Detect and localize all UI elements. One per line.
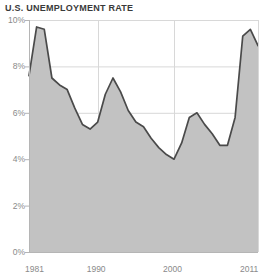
y-axis-tick-label: 4% (1, 154, 25, 164)
y-axis-tick-label: 0% (1, 247, 25, 257)
y-tick-marks-group (25, 21, 29, 253)
y-axis-tick-label: 2% (1, 201, 25, 211)
x-axis-tick-label: 1981 (25, 264, 44, 274)
chart-svg (0, 0, 268, 279)
area-fill (29, 27, 258, 252)
y-axis-tick: 0% (0, 247, 25, 257)
y-axis-tick-label: 6% (1, 108, 25, 118)
y-axis-tick: 2% (0, 201, 25, 211)
x-axis-tick-label: 1990 (87, 264, 106, 274)
y-axis-tick-label: 8% (1, 61, 25, 71)
area-series-group (29, 27, 258, 252)
x-axis-tick-label: 2000 (163, 264, 182, 274)
y-axis-tick: 10% (0, 15, 25, 25)
y-axis-tick: 6% (0, 108, 25, 118)
unemployment-rate-chart-card: U.S. UNEMPLOYMENT RATE 0%2%4%6%8%10% 198… (0, 0, 268, 279)
x-axis-tick-label: 2011 (240, 264, 258, 274)
y-axis-tick-label: 10% (1, 15, 25, 25)
y-axis-tick: 8% (0, 61, 25, 71)
y-axis-tick: 4% (0, 154, 25, 164)
chart-plot-area: 0%2%4%6%8%10% 1981199020002011 (0, 0, 268, 279)
